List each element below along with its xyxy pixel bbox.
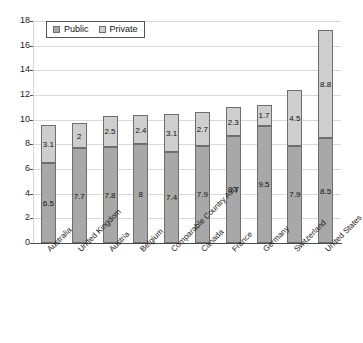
bar-value-label: 3.1: [42, 141, 55, 149]
bar-value-label: 9.5: [258, 181, 271, 189]
legend-item-public[interactable]: Public: [53, 25, 89, 34]
bar-group[interactable]: 7.72: [72, 21, 87, 243]
plot-area: 6.53.17.727.82.582.47.43.17.92.78.72.39.…: [33, 21, 341, 243]
bar-group[interactable]: 8.72.3: [226, 21, 241, 243]
bar-segment-private[interactable]: 1.7: [257, 105, 272, 126]
bar-segment-private[interactable]: 2.5: [103, 116, 118, 147]
bar-value-label: 7.9: [288, 191, 301, 199]
y-axis-tick-label: 4: [4, 189, 30, 198]
y-axis: 181614121086420: [0, 0, 30, 343]
y-axis-tick-label: 12: [4, 90, 30, 99]
bar-segment-private[interactable]: 2.3: [226, 107, 241, 135]
bar-value-label: 2: [73, 133, 86, 141]
bar-value-label: 8.5: [319, 188, 332, 196]
y-axis-tick-label: 0: [4, 238, 30, 247]
bar-segment-private[interactable]: 3.1: [164, 114, 179, 152]
bar-value-label: 6.5: [42, 200, 55, 208]
y-axis-tick-label: 14: [4, 65, 30, 74]
bar-segment-public[interactable]: 6.5: [41, 163, 56, 243]
bar-value-label: 7.7: [73, 193, 86, 201]
legend-label: Private: [110, 25, 138, 34]
bar-segment-private[interactable]: 2.7: [195, 112, 210, 145]
bar-segment-private[interactable]: 8.8: [318, 30, 333, 139]
y-axis-tick-label: 6: [4, 164, 30, 173]
bar-value-label: 8.8: [319, 81, 332, 89]
bar-value-label: 1.7: [258, 112, 271, 120]
bar-segment-private[interactable]: 2: [72, 123, 87, 148]
y-axis-tick-label: 10: [4, 115, 30, 124]
y-axis-line: [33, 21, 34, 243]
y-axis-tick-label: 18: [4, 16, 30, 25]
bar-value-label: 2.7: [196, 126, 209, 134]
bar-segment-private[interactable]: 2.4: [133, 115, 148, 145]
legend-label: Public: [64, 25, 89, 34]
y-axis-tick-label: 16: [4, 41, 30, 50]
bar-segment-public[interactable]: 7.4: [164, 152, 179, 243]
bar-group[interactable]: 7.43.1: [164, 21, 179, 243]
bar-value-label: 2.3: [227, 119, 240, 127]
bar-group[interactable]: 8.58.8: [318, 21, 333, 243]
bar-group[interactable]: 7.94.5: [287, 21, 302, 243]
bar-value-label: 4.5: [288, 115, 301, 123]
public-swatch-icon: [53, 26, 60, 33]
bar-segment-public[interactable]: 9.5: [257, 126, 272, 243]
bar-segment-private[interactable]: 3.1: [41, 125, 56, 163]
bar-segment-public[interactable]: 8: [133, 144, 148, 243]
bar-value-label: 2.5: [104, 128, 117, 136]
bar-segment-public[interactable]: 7.7: [72, 148, 87, 243]
bar-value-label: 7.9: [196, 191, 209, 199]
private-swatch-icon: [99, 26, 106, 33]
bar-value-label: 7.8: [104, 192, 117, 200]
bar-group[interactable]: 9.51.7: [257, 21, 272, 243]
legend-item-private[interactable]: Private: [99, 25, 138, 34]
bar-value-label: 3.1: [165, 130, 178, 138]
bar-group[interactable]: 82.4: [133, 21, 148, 243]
y-axis-tick-label: 2: [4, 213, 30, 222]
bar-value-label: 2.4: [134, 127, 147, 135]
bar-value-label: 7.4: [165, 194, 178, 202]
y-axis-tick-label: 8: [4, 139, 30, 148]
chart-legend: PublicPrivate: [46, 21, 145, 38]
bar-group[interactable]: 6.53.1: [41, 21, 56, 243]
bar-value-label: 8: [134, 191, 147, 199]
bar-segment-private[interactable]: 4.5: [287, 90, 302, 146]
